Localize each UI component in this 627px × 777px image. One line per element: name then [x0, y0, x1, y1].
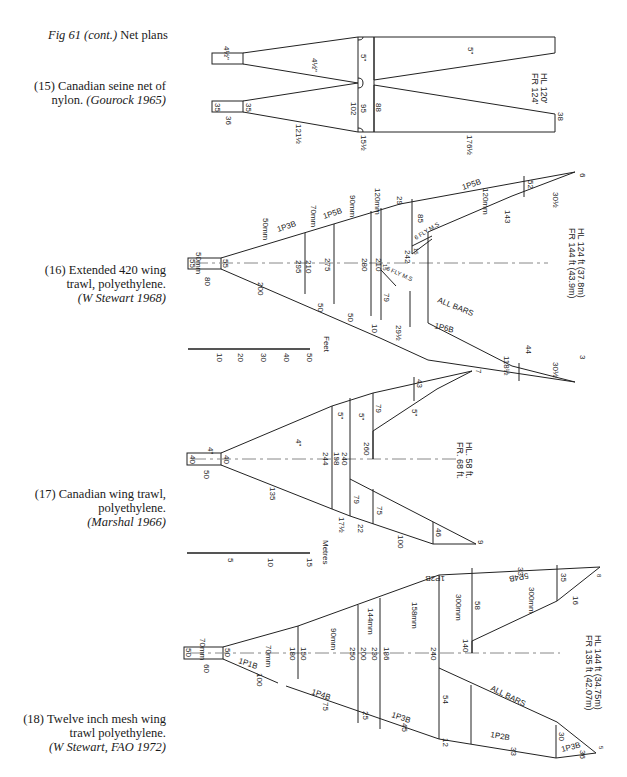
- dim-label: 295: [294, 260, 303, 274]
- dim-label: 36: [224, 116, 233, 125]
- dim-label: 10: [370, 324, 379, 333]
- dim-label: 275: [323, 258, 332, 272]
- footrope-length: FR. 68 ft.: [455, 442, 465, 479]
- taper-label: 1P3B: [276, 219, 297, 234]
- mesh-label: 300mm: [527, 587, 536, 614]
- mesh-label: 144mm: [366, 608, 375, 635]
- dim-label: 200: [359, 647, 368, 661]
- dim-label: 29½: [394, 325, 403, 341]
- dim-label: 17½: [337, 517, 346, 533]
- dim-label: 176½: [465, 135, 474, 155]
- dim-label: 50: [202, 470, 211, 479]
- lower-panel-outline: [221, 263, 575, 382]
- dim-label: 75: [375, 506, 384, 515]
- dim-label: 198: [332, 452, 341, 466]
- dim-label: 95: [359, 104, 368, 113]
- taper-label: 1P6B: [434, 321, 455, 334]
- scale-tick: 10: [266, 558, 275, 567]
- dim-label: 35: [559, 573, 568, 582]
- mesh-label: 70mm: [264, 645, 273, 668]
- upper-wing: [374, 37, 555, 80]
- dim-label: 6: [578, 173, 587, 178]
- all-bars-label: ALL BARS: [489, 684, 527, 709]
- dim-label: 50: [316, 303, 325, 312]
- scale-unit: Feet: [322, 336, 331, 353]
- scale-tick: 5: [226, 558, 235, 563]
- mesh-label: 4½": [310, 58, 319, 72]
- scale-bar-metres: 5 10 15 Metres: [187, 540, 330, 567]
- scale-tick: 10: [215, 353, 224, 362]
- dim-label: 240: [340, 452, 349, 466]
- taper-label: 1P4B: [310, 687, 331, 702]
- dim-label: 5: [598, 746, 604, 750]
- dim-label: 16: [571, 596, 580, 605]
- dim-label: 58: [473, 601, 482, 610]
- taper-label: 5P4B: [508, 571, 529, 583]
- mesh-label: 120mm: [481, 188, 490, 215]
- mesh-label: 300mm: [454, 594, 463, 621]
- dim-label: 100: [396, 535, 405, 549]
- dim-label: 244: [321, 452, 330, 466]
- scale-tick: 15: [305, 558, 314, 567]
- footrope-length: FR 135 ft (42.07m): [584, 635, 594, 711]
- dim-label: 54: [441, 695, 450, 704]
- dim-label: 250: [348, 647, 357, 661]
- dim-label: 135: [268, 487, 277, 501]
- dim-label: 80: [203, 277, 212, 286]
- dim-label: 55: [188, 259, 197, 268]
- dim-label: 79: [352, 495, 361, 504]
- dim-label: 242: [403, 250, 412, 264]
- dim-label: 280: [360, 258, 369, 272]
- diagram-16-extended-420: 50mm 55 55 80 50mm 70mm 90mm 120mm 1P3B …: [188, 172, 587, 382]
- diagram-17-canadian-wing: 4" 40 40 50 4" 5" 5" 5" 244 198 240 260 …: [187, 369, 485, 567]
- dim-label: 40: [222, 455, 231, 464]
- mesh-label: 5": [410, 409, 419, 416]
- mesh-label: 90mm: [329, 628, 338, 651]
- dim-label: 22: [356, 524, 365, 533]
- mesh-label: 70mm: [309, 205, 318, 228]
- mesh-label: 120mm: [373, 188, 382, 215]
- dim-label: 7: [474, 369, 483, 374]
- dim-label: 118½: [502, 356, 511, 376]
- scale-tick: 20: [236, 353, 245, 362]
- mesh-label: 4": [206, 447, 215, 454]
- lower-wing: [374, 85, 555, 132]
- dim-label: 88: [374, 103, 383, 112]
- dim-label: 143: [503, 210, 512, 224]
- mesh-label: 50mm: [261, 218, 270, 241]
- dim-label: 9: [476, 540, 485, 545]
- inner-wing-outline: [243, 37, 358, 132]
- dim-label: 36: [578, 750, 587, 759]
- dim-label: 45: [400, 723, 409, 732]
- mesh-label: 5": [359, 54, 368, 61]
- dim-label: 30: [557, 732, 566, 741]
- mesh-label: 5": [466, 47, 475, 54]
- dim-label: 38: [556, 112, 565, 121]
- taper-label: 1P2B: [490, 730, 511, 742]
- dim-label: 85: [416, 214, 425, 223]
- dim-label: 43: [415, 379, 424, 388]
- scale-tick: 40: [282, 353, 291, 362]
- footrope-length: FR 144 ft (43.9m): [567, 228, 577, 299]
- dim-label: 210: [304, 260, 313, 274]
- dim-label: 46: [434, 528, 443, 537]
- seam-line: [243, 83, 358, 101]
- dim-label: 3: [578, 355, 587, 360]
- dim-label: 230: [370, 647, 379, 661]
- upper-panel-outline: [221, 172, 575, 263]
- mesh-label: 158mm: [410, 602, 419, 629]
- upper-panel-outline: [221, 371, 472, 459]
- diagram-18-twelve-inch-mesh: 70mm 50 50 60 70mm 90mm 144mm 158mm 300m…: [184, 565, 604, 759]
- dim-label: 50: [346, 313, 355, 322]
- mesh-label: 4": [294, 439, 303, 446]
- mesh-label: 4½": [222, 46, 231, 60]
- mesh-label: 70mm: [198, 638, 207, 661]
- dim-label: 40: [188, 455, 197, 464]
- footrope-length: FR 124': [530, 73, 540, 105]
- dim-label: 30½: [551, 192, 560, 208]
- dim-label: 121½: [294, 124, 303, 144]
- dim-label: 60: [202, 664, 211, 673]
- dim-label: 102: [349, 102, 358, 116]
- dim-label: 200: [256, 282, 265, 296]
- dim-label: 52: [526, 180, 535, 189]
